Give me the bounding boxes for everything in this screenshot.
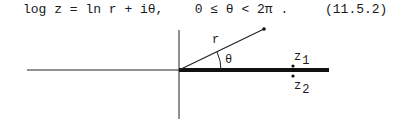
- z2-subscript: 2: [302, 83, 309, 97]
- z2-point: [291, 74, 294, 77]
- complex-plane-figure: [0, 0, 393, 124]
- z1-label: z1: [294, 51, 309, 63]
- radius-label: r: [212, 34, 219, 46]
- z2-label: z2: [294, 80, 309, 92]
- angle-arc: [217, 52, 221, 70]
- angle-label: θ: [225, 54, 232, 66]
- z1-base: z: [294, 50, 301, 64]
- radius-ray: [179, 29, 264, 70]
- ray-endpoint: [262, 27, 266, 31]
- z1-subscript: 1: [302, 54, 309, 68]
- z2-base: z: [294, 79, 301, 93]
- z1-point: [291, 64, 294, 67]
